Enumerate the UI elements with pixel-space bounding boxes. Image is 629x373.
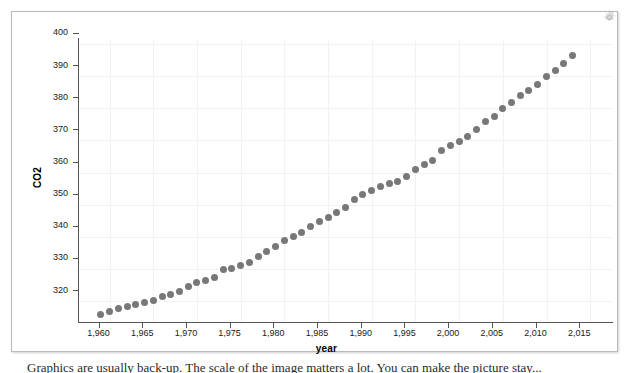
data-point xyxy=(491,113,498,120)
data-point xyxy=(141,299,148,306)
y-axis-tick-label: 340 xyxy=(26,221,68,230)
y-axis-tick-label: 380 xyxy=(26,93,68,102)
y-axis-tick-label: 350 xyxy=(26,189,68,198)
data-point xyxy=(333,209,340,216)
data-point xyxy=(150,297,157,304)
data-point xyxy=(342,204,349,211)
x-axis-tick-label: 1,990 xyxy=(338,329,384,338)
data-point xyxy=(167,291,174,298)
chart-card: CO2 year 3203303403503603703803904001,96… xyxy=(11,11,618,352)
gridline-vertical xyxy=(153,39,154,322)
data-point xyxy=(246,259,253,266)
gridline-vertical xyxy=(415,39,416,322)
data-point xyxy=(115,305,122,312)
data-point xyxy=(456,138,463,145)
data-point xyxy=(255,253,262,260)
caption-text: Graphics are usually back-up. The scale … xyxy=(27,362,627,373)
data-point xyxy=(132,301,139,308)
data-point xyxy=(421,161,428,168)
data-point xyxy=(447,142,454,149)
gridline-horizontal xyxy=(79,237,612,238)
data-point xyxy=(525,87,532,94)
data-point xyxy=(368,187,375,194)
gridline-vertical xyxy=(241,39,242,322)
gridline-horizontal xyxy=(79,108,612,109)
y-axis-tick xyxy=(73,194,79,195)
data-point xyxy=(508,99,515,106)
data-point xyxy=(386,180,393,187)
x-axis-line xyxy=(78,322,613,323)
data-point xyxy=(517,92,524,99)
data-point xyxy=(482,118,489,125)
caption-strip: Graphics are usually back-up. The scale … xyxy=(0,362,629,373)
data-point xyxy=(560,60,567,67)
data-point xyxy=(237,262,244,269)
y-axis-tick xyxy=(73,97,79,98)
y-axis-tick xyxy=(73,290,79,291)
y-axis-tick xyxy=(73,65,79,66)
data-point xyxy=(281,237,288,244)
data-point xyxy=(124,303,131,310)
y-axis-tick-label: 370 xyxy=(26,125,68,134)
plot-area xyxy=(79,39,612,322)
data-point xyxy=(429,157,436,164)
data-point xyxy=(316,218,323,225)
data-point xyxy=(272,243,279,250)
y-axis-tick-label: 400 xyxy=(26,28,68,37)
gridline-vertical xyxy=(590,39,591,322)
data-point xyxy=(552,67,559,74)
data-point xyxy=(473,126,480,133)
y-axis-tick xyxy=(73,162,79,163)
y-axis-tick-label: 330 xyxy=(26,253,68,262)
gridline-horizontal xyxy=(79,44,612,45)
x-axis-tick-label: 2,010 xyxy=(513,329,559,338)
data-point xyxy=(543,73,550,80)
data-point xyxy=(534,81,541,88)
data-point xyxy=(263,248,270,255)
data-point xyxy=(438,147,445,154)
x-axis-title: year xyxy=(12,343,629,354)
data-point xyxy=(464,133,471,140)
data-point xyxy=(290,233,297,240)
y-axis-tick xyxy=(73,129,79,130)
data-point xyxy=(569,52,576,59)
data-point xyxy=(298,229,305,236)
y-axis-tick xyxy=(73,33,79,34)
y-axis-tick-label: 360 xyxy=(26,157,68,166)
gridline-vertical xyxy=(110,39,111,322)
data-point xyxy=(351,196,358,203)
data-point xyxy=(211,274,218,281)
gridline-horizontal xyxy=(79,173,612,174)
gridline-vertical xyxy=(284,39,285,322)
x-axis-tick-label: 1,965 xyxy=(119,329,165,338)
gridline-vertical xyxy=(328,39,329,322)
x-axis-tick-label: 1,995 xyxy=(381,329,427,338)
data-point xyxy=(403,173,410,180)
data-point xyxy=(377,183,384,190)
data-point xyxy=(185,283,192,290)
x-axis-tick-label: 1,985 xyxy=(294,329,340,338)
data-point xyxy=(202,277,209,284)
y-axis-tick xyxy=(73,258,79,259)
data-point xyxy=(325,214,332,221)
data-point xyxy=(176,288,183,295)
gridline-vertical xyxy=(547,39,548,322)
x-axis-tick-label: 1,980 xyxy=(250,329,296,338)
gridline-horizontal xyxy=(79,301,612,302)
x-axis-tick-label: 2,000 xyxy=(425,329,471,338)
data-point xyxy=(159,293,166,300)
data-point xyxy=(220,266,227,273)
data-point xyxy=(394,178,401,185)
gear-icon[interactable] xyxy=(602,10,617,25)
gridline-vertical xyxy=(503,39,504,322)
screenshot-root: CO2 year 3203303403503603703803904001,96… xyxy=(0,0,629,373)
data-point xyxy=(499,105,506,112)
data-point xyxy=(228,265,235,272)
y-axis-tick xyxy=(73,226,79,227)
x-axis-tick-label: 1,975 xyxy=(207,329,253,338)
y-axis-tick-label: 390 xyxy=(26,61,68,70)
data-point xyxy=(307,223,314,230)
gridline-horizontal xyxy=(79,140,612,141)
gridline-vertical xyxy=(372,39,373,322)
x-axis-tick-label: 2,015 xyxy=(556,329,602,338)
